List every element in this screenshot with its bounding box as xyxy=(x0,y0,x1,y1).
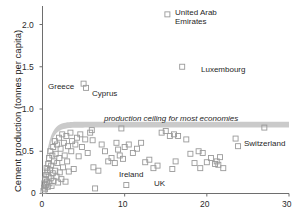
data-point-marker xyxy=(109,156,114,161)
data-point-marker xyxy=(170,167,175,172)
x-tick-label-20: 20 xyxy=(200,199,209,209)
data-point-marker xyxy=(91,165,96,170)
data-point-marker xyxy=(78,132,83,137)
data-point-marker xyxy=(71,167,76,172)
x-tick-label-30: 30 xyxy=(282,199,291,209)
data-point-marker xyxy=(124,183,129,188)
data-point-marker xyxy=(75,135,80,140)
y-tick-label-2-0: 2.0 xyxy=(22,20,34,30)
data-point-marker xyxy=(85,150,90,155)
data-point-marker xyxy=(236,144,241,149)
data-point-marker xyxy=(114,140,119,145)
cement-production-scatter-chart: Cement production (tonnes per capita) 0 … xyxy=(0,0,294,221)
data-point-marker xyxy=(121,156,126,161)
data-point-marker xyxy=(96,168,101,173)
data-point-marker xyxy=(79,145,84,150)
plot-area xyxy=(0,0,294,221)
data-point-marker xyxy=(192,161,197,166)
y-tick-label-1-5: 1.5 xyxy=(22,62,34,72)
annotation-label-luxembourg: Luxembourg xyxy=(201,66,245,75)
x-tick-label-0: 0 xyxy=(40,199,45,209)
data-point-marker xyxy=(61,165,66,170)
data-point-marker xyxy=(221,166,226,171)
data-point-marker xyxy=(55,161,60,166)
data-point-marker xyxy=(180,64,185,69)
y-tick-label-0-5: 0.5 xyxy=(22,146,34,156)
data-point-marker xyxy=(62,153,67,158)
annotation-label-greece: Greece xyxy=(48,83,74,92)
y-tick-label-0: 0 xyxy=(31,188,36,198)
chart-axes xyxy=(40,6,290,197)
data-point-marker xyxy=(65,159,70,164)
ceiling-band-shape xyxy=(43,122,290,194)
x-tick-label-10: 10 xyxy=(118,199,127,209)
data-point-marker xyxy=(139,140,144,145)
data-point-marker xyxy=(83,137,88,142)
annotation-label-switzerland: Switzerland xyxy=(244,140,285,149)
data-point-marker xyxy=(70,139,75,144)
data-point-marker xyxy=(233,136,238,141)
data-point-marker xyxy=(90,138,95,143)
annotation-label-united-arab-emirates-line2: Emirates xyxy=(175,18,207,27)
data-point-marker xyxy=(116,147,121,152)
production-ceiling-label: production ceiling for most economies xyxy=(104,114,238,123)
data-point-marker xyxy=(188,151,193,156)
production-ceiling-band xyxy=(43,122,290,194)
data-point-marker xyxy=(198,166,203,171)
data-point-marker xyxy=(165,12,170,17)
annotation-label-uk: UK xyxy=(154,180,165,189)
data-point-marker xyxy=(106,159,111,164)
data-point-marker xyxy=(93,186,98,191)
data-point-marker xyxy=(117,153,122,158)
data-point-marker xyxy=(69,149,74,154)
data-point-marker xyxy=(173,159,178,164)
data-points xyxy=(41,12,267,194)
data-point-marker xyxy=(99,142,104,147)
annotation-label-cyprus: Cyprus xyxy=(92,90,117,99)
data-point-marker xyxy=(73,142,78,147)
data-point-marker xyxy=(184,137,189,142)
data-point-marker xyxy=(102,149,107,154)
annotation-label-ireland: Ireland xyxy=(119,171,143,180)
data-point-marker xyxy=(76,154,81,159)
data-point-marker xyxy=(66,169,71,174)
data-point-marker xyxy=(112,161,117,166)
y-tick-label-1-0: 1.0 xyxy=(22,104,34,114)
